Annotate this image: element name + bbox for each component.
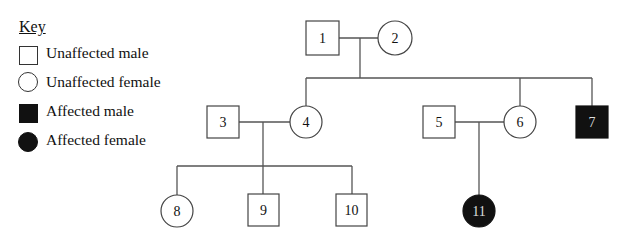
pedigree-chart: 1 2 3 4 5 6 7 8 [0, 0, 622, 242]
svg-text:1: 1 [319, 31, 326, 46]
individual-1: 1 [306, 21, 339, 55]
svg-text:5: 5 [436, 115, 443, 130]
individual-10: 10 [336, 194, 367, 226]
individual-11: 11 [463, 195, 495, 227]
individual-9: 9 [248, 194, 279, 226]
svg-text:3: 3 [220, 115, 227, 130]
svg-text:4: 4 [303, 115, 310, 130]
individual-6: 6 [504, 106, 536, 138]
individual-8: 8 [161, 195, 193, 227]
individual-4: 4 [290, 106, 322, 138]
svg-text:7: 7 [589, 115, 596, 130]
svg-text:8: 8 [174, 204, 181, 219]
individual-2: 2 [378, 21, 412, 55]
individual-3: 3 [207, 106, 239, 138]
individual-5: 5 [423, 106, 455, 138]
svg-text:9: 9 [260, 203, 267, 218]
svg-text:11: 11 [472, 204, 485, 219]
individual-7: 7 [576, 106, 608, 138]
svg-text:10: 10 [345, 203, 359, 218]
svg-text:6: 6 [517, 115, 524, 130]
svg-text:2: 2 [392, 31, 399, 46]
